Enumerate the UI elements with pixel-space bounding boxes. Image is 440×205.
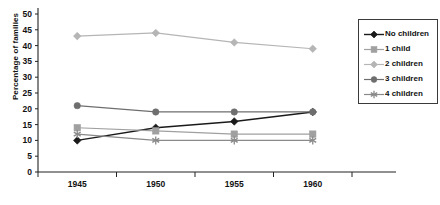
diamond-marker-icon: [363, 27, 385, 40]
line-chart: Percentage of families 05101520253035404…: [0, 0, 440, 205]
legend: No children1 child2 children3 children4 …: [358, 19, 438, 104]
data-point-marker: [153, 109, 159, 115]
circle-marker-icon: [363, 72, 385, 85]
series-no-children: [73, 108, 316, 144]
legend-label: No children: [385, 30, 429, 38]
series-3-children: [74, 102, 316, 115]
data-point-marker: [74, 125, 80, 131]
data-point-marker: [371, 61, 378, 68]
data-point-marker: [309, 45, 317, 53]
square-marker-icon: [363, 42, 385, 55]
asterisk-marker-icon: [363, 87, 385, 100]
data-point-marker: [371, 77, 377, 83]
data-point-marker: [152, 29, 160, 37]
data-point-marker: [371, 47, 377, 53]
series-line: [77, 106, 313, 112]
data-point-marker: [231, 131, 237, 137]
legend-label: 4 children: [385, 90, 423, 98]
series-line: [77, 112, 313, 140]
legend-item-3-children[interactable]: 3 children: [359, 71, 437, 86]
legend-item-1-child[interactable]: 1 child: [359, 41, 437, 56]
legend-label: 2 children: [385, 60, 423, 68]
legend-item-4-children[interactable]: 4 children: [359, 86, 437, 101]
legend-item-2-children[interactable]: 2 children: [359, 56, 437, 71]
data-point-marker: [230, 118, 238, 126]
data-point-marker: [73, 32, 81, 40]
series-line: [77, 128, 313, 134]
legend-label: 3 children: [385, 75, 423, 83]
data-point-marker: [310, 109, 316, 115]
diamond-marker-icon: [363, 57, 385, 70]
data-point-marker: [153, 128, 159, 134]
data-point-marker: [310, 131, 316, 137]
data-point-marker: [74, 102, 80, 108]
legend-item-no-children[interactable]: No children: [359, 26, 437, 41]
data-point-marker: [231, 109, 237, 115]
data-point-marker: [371, 31, 378, 38]
legend-label: 1 child: [385, 45, 410, 53]
data-point-marker: [230, 39, 238, 47]
series-line: [77, 33, 313, 49]
series-2-children: [73, 29, 316, 52]
